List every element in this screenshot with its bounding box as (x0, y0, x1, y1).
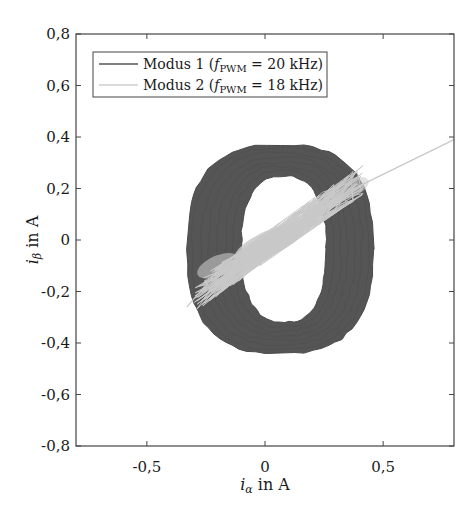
y-tick-label: -0,8 (41, 437, 70, 455)
y-tick-label: 0,2 (46, 180, 70, 198)
y-tick-label: 0,4 (46, 128, 70, 146)
x-tick-label: 0 (260, 458, 270, 476)
y-axis-label: iβ in A (23, 215, 44, 264)
x-tick-label: -0,5 (132, 458, 161, 476)
chart-canvas: -0,500,50,80,60,40,20-0,2-0,4-0,6-0,8 Mo… (0, 0, 473, 515)
legend: Modus 1 (fPWM = 20 kHz) Modus 2 (fPWM = … (93, 52, 327, 97)
y-tick-label: 0,8 (46, 25, 70, 43)
x-axis-label: iα in A (240, 475, 290, 496)
y-tick-label: 0 (60, 231, 70, 249)
y-tick-label: 0,6 (46, 77, 70, 95)
x-tick-label: 0,5 (371, 458, 395, 476)
y-tick-label: -0,6 (41, 386, 70, 404)
plot-data-layer (187, 140, 454, 354)
y-tick-label: -0,2 (41, 283, 70, 301)
y-tick-label: -0,4 (41, 334, 70, 352)
